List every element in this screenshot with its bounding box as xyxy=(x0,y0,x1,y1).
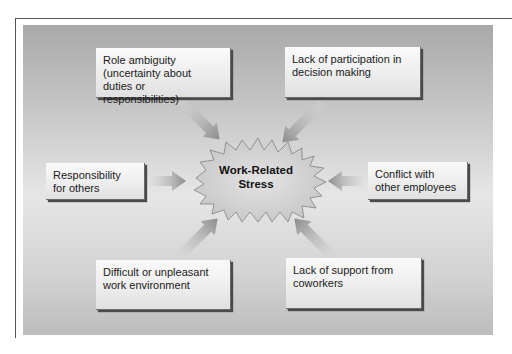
cause-box-lack-of-participation: Lack of participation in decision making xyxy=(285,47,421,98)
arrow-icon xyxy=(150,171,186,191)
cause-box-lack-of-support: Lack of support from coworkers xyxy=(286,258,422,309)
central-concept: Work-Related Stress xyxy=(206,163,306,191)
cause-box-role-ambiguity: Role ambiguity (uncertainty about duties… xyxy=(96,48,231,98)
arrow-icon xyxy=(328,171,364,191)
cause-box-difficult-environment: Difficult or unpleasant work environment xyxy=(96,260,231,310)
arrow-icon xyxy=(171,211,225,265)
arrow-icon xyxy=(275,96,329,150)
arrow-icon xyxy=(287,211,341,265)
cause-box-conflict-with-employees: Conflict with other employees xyxy=(368,162,468,200)
cause-box-responsibility-for-others: Responsibility for others xyxy=(46,163,145,200)
